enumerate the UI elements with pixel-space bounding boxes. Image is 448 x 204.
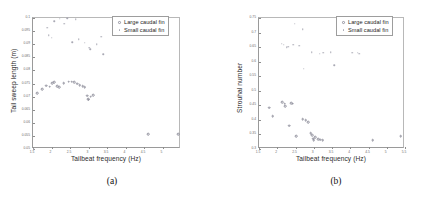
data-point-small-caudal-fin bbox=[66, 17, 68, 19]
x-tick-label-b: 5 bbox=[385, 150, 387, 154]
y-tick-label-b: 0.7 bbox=[242, 30, 256, 34]
data-point-large-caudal-fin bbox=[92, 94, 95, 97]
x-tick-label-a: 2 bbox=[50, 150, 52, 154]
data-point-large-caudal-fin bbox=[268, 106, 271, 109]
legend-entry: Large caudal fin bbox=[115, 19, 165, 27]
data-point-small-caudal-fin bbox=[283, 44, 285, 46]
y-tick-label-b: 0.6 bbox=[242, 59, 256, 63]
y-tick-label-a: 0.085 bbox=[16, 54, 30, 58]
legend-b: Large caudal finSmall caudal fin bbox=[336, 16, 393, 36]
y-tick-label-b: 0.55 bbox=[242, 73, 256, 77]
y-tick-b bbox=[259, 134, 261, 135]
data-point-small-caudal-fin bbox=[78, 39, 80, 41]
y-tick-b bbox=[259, 18, 261, 19]
figure-container: Tail sweep length (m) Tailbeat frequency… bbox=[0, 0, 448, 204]
data-point-large-caudal-fin bbox=[272, 115, 275, 118]
data-point-small-caudal-fin bbox=[84, 42, 86, 44]
data-point-large-caudal-fin bbox=[87, 98, 90, 101]
x-tick-a bbox=[89, 147, 90, 149]
y-tick-label-b: 0.4 bbox=[242, 117, 256, 121]
data-point-small-caudal-fin bbox=[48, 34, 50, 36]
data-point-small-caudal-fin bbox=[293, 44, 295, 46]
data-point-large-caudal-fin bbox=[399, 135, 402, 138]
y-tick-label-a: 0.1 bbox=[16, 15, 30, 19]
x-tick-label-b: 3.5 bbox=[329, 150, 334, 154]
dot-marker bbox=[115, 29, 124, 31]
y-tick-b bbox=[259, 91, 261, 92]
x-tick-label-b: 4 bbox=[348, 150, 350, 154]
caption-b: (b) bbox=[224, 176, 448, 186]
legend-label: Large caudal fin bbox=[124, 19, 165, 25]
x-tick-a bbox=[163, 147, 164, 149]
data-point-small-caudal-fin bbox=[352, 52, 354, 54]
y-tick-label-a: 0.08 bbox=[16, 67, 30, 71]
x-tick-label-a: 4 bbox=[124, 150, 126, 154]
x-tick-label-b: 3 bbox=[312, 150, 314, 154]
y-tick-label-a: 0.05 bbox=[16, 146, 30, 150]
y-tick-label-a: 0.065 bbox=[16, 107, 30, 111]
x-tick-a bbox=[52, 147, 53, 149]
x-tick-label-a: 4.5 bbox=[141, 150, 146, 154]
dot-marker-glyph bbox=[119, 29, 121, 31]
y-tick-label-b: 0.5 bbox=[242, 88, 256, 92]
data-point-small-caudal-fin bbox=[103, 53, 105, 55]
y-tick-a bbox=[33, 18, 35, 19]
y-tick-b bbox=[259, 105, 261, 106]
y-tick-label-a: 0.06 bbox=[16, 120, 30, 124]
data-point-large-caudal-fin bbox=[48, 86, 51, 89]
legend-entry: Large caudal fin bbox=[339, 19, 389, 27]
dot-marker-glyph bbox=[343, 29, 345, 31]
plot-area-b bbox=[258, 17, 404, 148]
data-point-small-caudal-fin bbox=[71, 41, 73, 43]
y-tick-a bbox=[33, 70, 35, 71]
y-tick-label-b: 0.45 bbox=[242, 102, 256, 106]
data-point-large-caudal-fin bbox=[372, 139, 375, 142]
x-tick-label-b: 2 bbox=[275, 150, 277, 154]
data-point-large-caudal-fin bbox=[147, 133, 150, 136]
open-circle-marker-glyph bbox=[118, 21, 121, 24]
y-tick-a bbox=[33, 123, 35, 124]
x-tick-label-a: 3.5 bbox=[104, 150, 109, 154]
data-point-large-caudal-fin bbox=[45, 84, 48, 87]
legend-label: Large caudal fin bbox=[348, 19, 389, 25]
data-point-large-caudal-fin bbox=[84, 86, 87, 89]
x-tick-b bbox=[314, 147, 315, 149]
data-point-small-caudal-fin bbox=[59, 18, 61, 20]
data-point-small-caudal-fin bbox=[298, 45, 300, 47]
data-point-large-caudal-fin bbox=[295, 135, 298, 138]
y-tick-a bbox=[33, 84, 35, 85]
y-tick-a bbox=[33, 31, 35, 32]
y-tick-b bbox=[259, 76, 261, 77]
data-point-small-caudal-fin bbox=[322, 52, 324, 54]
data-point-large-caudal-fin bbox=[86, 94, 89, 97]
y-tick-label-a: 0.055 bbox=[16, 133, 30, 137]
x-axis-label-b: Tailbeat frequency (Hz) bbox=[258, 155, 404, 162]
open-circle-marker-glyph bbox=[342, 21, 345, 24]
y-tick-label-b: 0.3 bbox=[242, 146, 256, 150]
x-tick-label-b: 2.5 bbox=[292, 150, 297, 154]
y-tick-b bbox=[259, 47, 261, 48]
x-tick-label-a: 3 bbox=[87, 150, 89, 154]
data-point-small-caudal-fin bbox=[311, 52, 313, 54]
data-point-large-caudal-fin bbox=[53, 81, 56, 84]
data-point-large-caudal-fin bbox=[312, 139, 315, 142]
x-tick-b bbox=[350, 147, 351, 149]
y-tick-b bbox=[259, 33, 261, 34]
y-tick-label-a: 0.09 bbox=[16, 41, 30, 45]
data-point-small-caudal-fin bbox=[64, 23, 66, 25]
y-tick-a bbox=[33, 136, 35, 137]
x-tick-b bbox=[387, 147, 388, 149]
x-tick-a bbox=[126, 147, 127, 149]
y-tick-label-a: 0.07 bbox=[16, 94, 30, 98]
x-tick-label-a: 2.5 bbox=[67, 150, 72, 154]
data-point-small-caudal-fin bbox=[333, 64, 335, 66]
data-point-small-caudal-fin bbox=[302, 28, 304, 30]
x-tick-label-b: 1.5 bbox=[256, 150, 261, 154]
panel-a: Tail sweep length (m) Tailbeat frequency… bbox=[0, 0, 224, 204]
legend-entry: Small caudal fin bbox=[115, 26, 165, 34]
data-point-large-caudal-fin bbox=[41, 88, 44, 91]
open-circle-marker bbox=[115, 21, 124, 24]
data-point-small-caudal-fin bbox=[303, 68, 305, 70]
data-point-large-caudal-fin bbox=[58, 86, 61, 89]
legend-entry: Small caudal fin bbox=[339, 26, 389, 34]
